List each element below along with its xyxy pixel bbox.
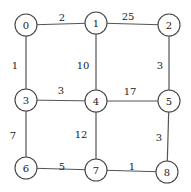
edge-weight-label: 5 (59, 161, 65, 172)
edge-weight-label: 10 (77, 60, 90, 71)
node-label: 4 (93, 96, 99, 107)
node-label: 7 (93, 165, 99, 176)
graph-node-6: 6 (15, 157, 37, 179)
edge-weight-label: 3 (58, 85, 64, 96)
nodes-layer: 012345678 (15, 12, 180, 183)
graph-node-1: 1 (85, 12, 107, 34)
edge-weight-label: 12 (75, 129, 88, 140)
node-label: 5 (166, 96, 172, 107)
weighted-graph-diagram: 2251103317712351 012345678 (0, 0, 191, 192)
node-label: 1 (93, 18, 99, 29)
edge-weight-label: 7 (10, 130, 16, 141)
edge-weight-label: 2 (59, 12, 65, 23)
graph-node-5: 5 (158, 90, 180, 112)
graph-node-2: 2 (158, 14, 180, 36)
node-label: 2 (166, 20, 172, 31)
node-label: 0 (23, 20, 29, 31)
node-label: 6 (23, 163, 29, 174)
graph-node-3: 3 (15, 89, 37, 111)
node-label: 8 (164, 167, 170, 178)
graph-node-8: 8 (156, 161, 178, 183)
edge-weight-label: 3 (157, 60, 163, 71)
node-label: 3 (23, 95, 29, 106)
edge-weight-label: 17 (124, 86, 137, 97)
graph-node-7: 7 (85, 159, 107, 181)
graph-node-0: 0 (15, 14, 37, 36)
edge-weight-label: 3 (156, 132, 162, 143)
graph-node-4: 4 (85, 90, 107, 112)
edge-weight-label: 1 (129, 161, 135, 172)
edge-weight-label: 25 (122, 11, 135, 22)
edge-weight-label: 1 (12, 60, 18, 71)
